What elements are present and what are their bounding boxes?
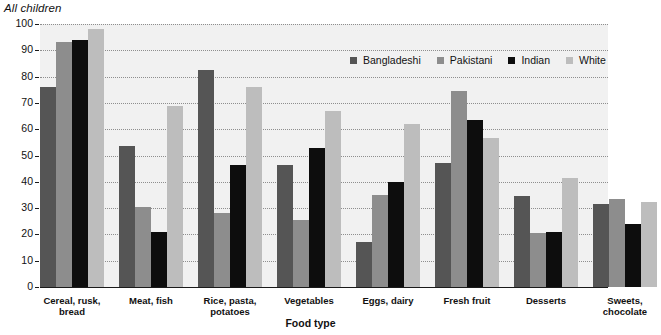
x-tick-label-0: Cereal, rusk, bread xyxy=(27,295,117,317)
y-tick-label: 60 xyxy=(3,122,33,134)
bar-indian-2 xyxy=(230,165,246,287)
y-tick-label: 0 xyxy=(3,280,33,292)
y-tick-mark xyxy=(35,24,39,25)
y-tick-mark xyxy=(35,208,39,209)
bar-white-6 xyxy=(562,178,578,287)
y-tick-label: 30 xyxy=(3,201,33,213)
y-tick-mark xyxy=(35,50,39,51)
bar-white-4 xyxy=(404,124,420,287)
y-tick-label: 70 xyxy=(3,96,33,108)
bar-white-1 xyxy=(167,106,183,287)
bar-group xyxy=(198,24,262,287)
group-spacer xyxy=(104,286,119,287)
legend-swatch-icon xyxy=(350,57,357,64)
legend-swatch-icon xyxy=(437,57,444,64)
x-tick-label-1: Meat, fish xyxy=(106,295,196,306)
legend-item-bangladeshi[interactable]: Bangladeshi xyxy=(350,54,421,66)
bar-bangladeshi-3 xyxy=(277,165,293,287)
chart-legend: BangladeshiPakistaniIndianWhite xyxy=(350,54,606,66)
y-tick-label: 90 xyxy=(3,43,33,55)
bar-indian-7 xyxy=(625,224,641,287)
bar-white-5 xyxy=(483,138,499,287)
y-tick-label: 10 xyxy=(3,254,33,266)
x-tick-label-5: Fresh fruit xyxy=(422,295,512,306)
group-spacer xyxy=(499,286,514,287)
y-tick-mark xyxy=(35,103,39,104)
bar-bangladeshi-5 xyxy=(435,163,451,287)
y-tick-mark xyxy=(35,182,39,183)
legend-label: Bangladeshi xyxy=(363,54,421,66)
bar-indian-3 xyxy=(309,148,325,287)
bar-group xyxy=(277,24,341,287)
x-tick-label-7: Sweets, chocolate xyxy=(580,295,661,317)
legend-label: Pakistani xyxy=(450,54,493,66)
y-tick-mark xyxy=(35,129,39,130)
y-tick-mark xyxy=(35,156,39,157)
bar-pakistani-7 xyxy=(609,199,625,287)
bar-indian-4 xyxy=(388,182,404,287)
bar-pakistani-1 xyxy=(135,207,151,287)
bar-pakistani-0 xyxy=(56,42,72,287)
legend-label: White xyxy=(579,54,606,66)
bar-pakistani-5 xyxy=(451,91,467,287)
bar-pakistani-2 xyxy=(214,213,230,287)
bar-indian-6 xyxy=(546,232,562,287)
bar-indian-0 xyxy=(72,40,88,287)
bar-bangladeshi-6 xyxy=(514,196,530,287)
y-tick-mark xyxy=(35,77,39,78)
bar-bangladeshi-0 xyxy=(40,87,56,287)
group-spacer xyxy=(341,286,356,287)
x-axis-title: Food type xyxy=(0,317,621,329)
x-tick-label-2: Rice, pasta, potatoes xyxy=(185,295,275,317)
group-spacer xyxy=(183,286,198,287)
group-spacer xyxy=(420,286,435,287)
bar-bangladeshi-2 xyxy=(198,70,214,287)
y-tick-label: 80 xyxy=(3,70,33,82)
legend-swatch-icon xyxy=(566,57,573,64)
y-tick-label: 20 xyxy=(3,227,33,239)
y-tick-mark xyxy=(35,234,39,235)
bar-white-3 xyxy=(325,111,341,287)
legend-label: Indian xyxy=(521,54,550,66)
bar-white-2 xyxy=(246,87,262,287)
group-spacer xyxy=(262,286,277,287)
legend-item-indian[interactable]: Indian xyxy=(508,54,550,66)
y-tick-mark xyxy=(35,261,39,262)
y-tick-mark xyxy=(35,287,39,288)
bar-white-0 xyxy=(88,29,104,287)
x-tick-label-4: Eggs, dairy xyxy=(343,295,433,306)
y-tick-label: 50 xyxy=(3,149,33,161)
gridline-0 xyxy=(40,287,608,288)
bar-pakistani-6 xyxy=(530,233,546,287)
bar-indian-1 xyxy=(151,232,167,287)
chart-title: All children xyxy=(4,2,61,14)
bar-group xyxy=(40,24,104,287)
x-tick-label-3: Vegetables xyxy=(264,295,354,306)
bar-group xyxy=(119,24,183,287)
bar-bangladeshi-4 xyxy=(356,242,372,287)
legend-item-pakistani[interactable]: Pakistani xyxy=(437,54,493,66)
bar-white-7 xyxy=(641,202,657,287)
group-spacer xyxy=(578,286,593,287)
plot-area: BangladeshiPakistaniIndianWhite xyxy=(40,24,608,287)
y-tick-label: 100 xyxy=(3,17,33,29)
bar-bangladeshi-1 xyxy=(119,146,135,287)
legend-item-white[interactable]: White xyxy=(566,54,606,66)
bar-pakistani-3 xyxy=(293,220,309,287)
bar-indian-5 xyxy=(467,120,483,287)
y-tick-label: 40 xyxy=(3,175,33,187)
legend-swatch-icon xyxy=(508,57,515,64)
bar-bangladeshi-7 xyxy=(593,204,609,287)
bar-pakistani-4 xyxy=(372,195,388,287)
x-tick-label-6: Desserts xyxy=(501,295,591,306)
